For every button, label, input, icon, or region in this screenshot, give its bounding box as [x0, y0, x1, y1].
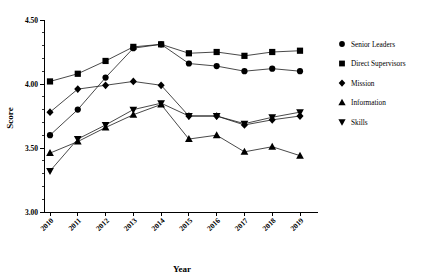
legend-item-direct-supervisors[interactable]: Direct Supervisors [339, 59, 406, 68]
data-point [46, 149, 54, 156]
legend-item-senior-leaders[interactable]: Senior Leaders [339, 40, 395, 49]
legend-marker-triangle-down-icon [338, 119, 345, 126]
y-tick-label: 3.00 [25, 208, 38, 217]
line-chart: 3.003.504.004.50 20102011201220132014201… [0, 0, 431, 279]
data-point [102, 75, 108, 81]
y-tick-label: 4.50 [25, 16, 38, 25]
x-tick-label: 2015 [177, 216, 194, 233]
data-point [102, 122, 110, 129]
data-point [297, 48, 303, 54]
data-point [269, 49, 275, 55]
data-point [75, 71, 81, 77]
x-tick-label: 2019 [288, 216, 305, 233]
chart-legend: Senior LeadersDirect SupervisorsMissionI… [338, 40, 405, 127]
y-axis-title: Score [5, 107, 15, 128]
legend-label: Skills [351, 118, 368, 127]
data-point [268, 143, 276, 150]
x-tick-label: 2010 [38, 216, 55, 233]
data-point [214, 49, 220, 55]
data-point [46, 168, 54, 175]
x-axis: 2010201120122013201420152016201720182019 [38, 212, 318, 233]
data-point [297, 68, 303, 74]
data-point [46, 108, 53, 116]
legend-item-information[interactable]: Information [338, 98, 386, 107]
legend-item-mission[interactable]: Mission [339, 79, 375, 88]
data-point [102, 81, 109, 89]
data-point [186, 50, 192, 56]
data-point [102, 58, 108, 64]
series-layer [46, 41, 304, 175]
y-tick-label: 4.00 [25, 80, 38, 89]
x-tick-label: 2018 [261, 216, 278, 233]
data-point [75, 107, 81, 113]
legend-item-skills[interactable]: Skills [338, 118, 367, 127]
legend-label: Information [351, 98, 386, 107]
x-tick-label: 2016 [205, 216, 222, 233]
data-point [47, 78, 53, 84]
series-direct-supervisors [47, 41, 303, 84]
data-point [74, 85, 81, 93]
legend-label: Direct Supervisors [351, 59, 406, 68]
data-point [186, 60, 192, 66]
data-point [269, 66, 275, 72]
series-senior-leaders [47, 41, 303, 138]
data-point [129, 107, 137, 114]
data-point [241, 53, 247, 59]
chart-canvas: 3.003.504.004.50 20102011201220132014201… [0, 0, 431, 279]
x-tick-label: 2012 [94, 216, 111, 233]
legend-marker-triangle-up-icon [338, 99, 345, 106]
legend-marker-circle-icon [339, 41, 345, 47]
legend-marker-diamond-icon [339, 79, 346, 86]
y-axis: 3.003.504.004.50 [25, 16, 44, 217]
legend-marker-square-icon [339, 61, 345, 67]
data-point [130, 44, 136, 50]
data-point [213, 131, 221, 138]
y-tick-label: 3.50 [25, 144, 38, 153]
x-tick-label: 2017 [233, 216, 250, 233]
legend-label: Senior Leaders [351, 40, 395, 49]
x-tick-label: 2011 [67, 216, 84, 233]
legend-label: Mission [351, 79, 375, 88]
x-tick-label: 2014 [150, 216, 167, 233]
data-point [241, 68, 247, 74]
data-point [47, 132, 53, 138]
x-axis-title: Year [173, 264, 191, 274]
data-point [158, 41, 164, 47]
data-point [214, 63, 220, 69]
x-tick-label: 2013 [122, 216, 139, 233]
data-point [130, 78, 137, 86]
